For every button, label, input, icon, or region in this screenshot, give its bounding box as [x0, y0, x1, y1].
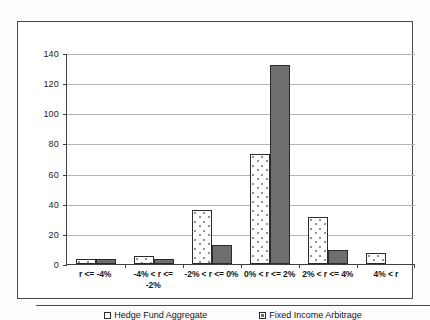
bar-fixed-income-arbitrage	[328, 250, 348, 264]
x-axis-category-label: r <= -4%	[66, 269, 124, 291]
legend-label-hedge-fund-aggregate: Hedge Fund Aggregate	[114, 310, 207, 320]
y-axis-label: 60	[49, 170, 59, 180]
x-axis-tick	[125, 264, 126, 268]
bar-group	[241, 54, 299, 264]
bar-group	[125, 54, 183, 264]
bar-group	[183, 54, 241, 264]
y-axis-label: 40	[49, 200, 59, 210]
bar-hedge-fund-aggregate	[250, 154, 270, 264]
legend-swatch-white-icon	[104, 312, 111, 319]
bar-fixed-income-arbitrage	[154, 259, 174, 264]
x-axis-tick	[183, 264, 184, 268]
x-axis-category-label: -2% < r <= 0%	[182, 269, 240, 291]
bar-fixed-income-arbitrage	[96, 259, 116, 264]
legend-item-hedge-fund-aggregate: Hedge Fund Aggregate	[104, 310, 207, 320]
x-axis-tick	[241, 264, 242, 268]
y-axis-label: 140	[43, 49, 59, 59]
legend-label-fixed-income-arbitrage: Fixed Income Arbitrage	[269, 310, 362, 320]
x-axis-category-label: 4% < r	[357, 269, 415, 291]
legend-swatch-gray-icon	[259, 312, 266, 319]
y-axis-label: 120	[43, 79, 59, 89]
bar-groups	[67, 54, 415, 264]
chart-legend: Hedge Fund Aggregate Fixed Income Arbitr…	[36, 305, 430, 320]
legend-item-fixed-income-arbitrage: Fixed Income Arbitrage	[259, 310, 362, 320]
bar-fixed-income-arbitrage	[270, 65, 290, 264]
bar-hedge-fund-aggregate	[134, 256, 154, 264]
bar-group	[299, 54, 357, 264]
y-axis-label: 100	[43, 109, 59, 119]
x-axis-tick	[357, 264, 358, 268]
y-axis-label: 80	[49, 139, 59, 149]
x-axis-labels: r <= -4%-4% < r <= -2%-2% < r <= 0%0% < …	[66, 269, 415, 291]
bar-hedge-fund-aggregate	[76, 259, 96, 264]
bar-fixed-income-arbitrage	[212, 245, 232, 264]
chart-frame: 020406080100120140 r <= -4%-4% < r <= -2…	[17, 21, 413, 299]
x-axis-category-label: 0% < r <= 2%	[241, 269, 299, 291]
x-axis-tick	[414, 264, 415, 268]
x-axis-tick	[299, 264, 300, 268]
bar-hedge-fund-aggregate	[366, 253, 386, 264]
plot-area: 020406080100120140	[66, 54, 415, 265]
bar-group	[67, 54, 125, 264]
bar-group	[357, 54, 415, 264]
y-axis-label: 20	[49, 230, 59, 240]
bar-hedge-fund-aggregate	[192, 210, 212, 264]
bar-hedge-fund-aggregate	[308, 217, 328, 264]
y-axis-tick	[63, 265, 67, 266]
x-axis-category-label: 2% < r <= 4%	[299, 269, 357, 291]
y-axis-label: 0	[54, 260, 59, 270]
x-axis-category-label: -4% < r <= -2%	[124, 269, 182, 291]
